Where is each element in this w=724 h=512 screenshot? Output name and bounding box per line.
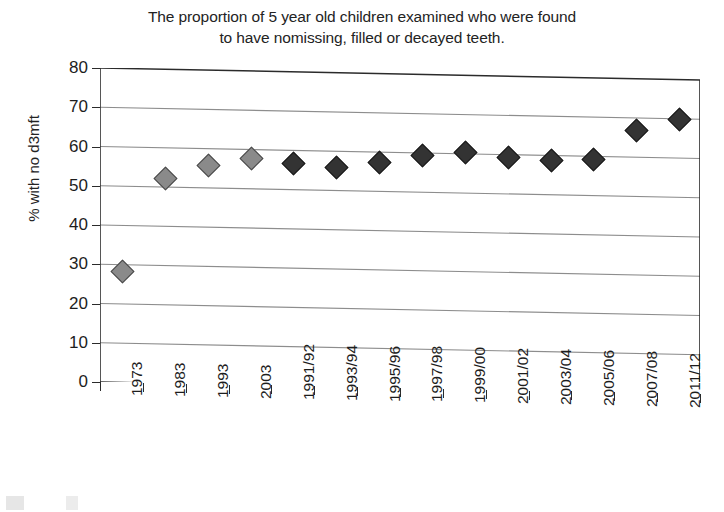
x-tick-label: 1995/96 [386, 346, 404, 402]
x-tick-label: 1973 [128, 362, 146, 396]
chart-figure: The proportion of 5 year old children ex… [0, 0, 724, 512]
x-tick-mark [100, 382, 101, 391]
x-tick-label: 1991/92 [300, 344, 318, 400]
y-tick-label: 10 [44, 333, 88, 353]
y-tick-mark [92, 107, 100, 108]
chart-title: The proportion of 5 year old children ex… [52, 6, 672, 48]
y-tick-label: 80 [44, 58, 88, 78]
chart-title-line-1: The proportion of 5 year old children ex… [52, 6, 672, 27]
y-tick-mark [92, 304, 100, 305]
y-tick-label: 70 [44, 97, 88, 117]
y-tick-label: 0 [44, 372, 88, 392]
y-tick-label: 40 [44, 215, 88, 235]
plot-area [100, 68, 700, 382]
y-tick-label: 50 [44, 176, 88, 196]
x-tick-label: 1983 [171, 363, 189, 397]
plot-frame [100, 68, 700, 382]
y-tick-mark [92, 264, 100, 265]
chart-title-line-2: to have nomissing, filled or decayed tee… [52, 27, 672, 48]
x-tick-label: 1997/98 [428, 346, 446, 402]
y-tick-label: 20 [44, 294, 88, 314]
x-tick-label: 2001/02 [514, 348, 532, 404]
x-tick-label: 2011/12 [686, 353, 704, 408]
y-tick-mark [92, 68, 100, 69]
x-tick-label: 2003 [257, 365, 275, 399]
x-tick-label: 1999/00 [471, 347, 489, 403]
x-tick-label: 2005/06 [600, 350, 618, 406]
y-tick-mark [92, 225, 100, 226]
y-tick-label: 60 [44, 137, 88, 157]
x-tick-label: 2007/08 [643, 351, 661, 407]
y-tick-label: 30 [44, 254, 88, 274]
y-tick-mark [92, 147, 100, 148]
y-tick-mark [92, 343, 100, 344]
x-tick-label: 2003/04 [557, 349, 575, 405]
y-tick-mark [92, 186, 100, 187]
y-axis-title: % with no d3mft [25, 89, 42, 249]
y-tick-mark [92, 382, 100, 383]
scan-artifact [6, 496, 126, 510]
x-tick-label: 1993/94 [343, 345, 361, 401]
x-tick-label: 1993 [214, 364, 232, 398]
